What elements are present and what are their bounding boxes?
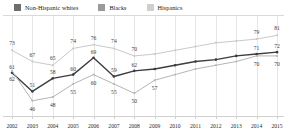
point-label: 48 bbox=[50, 102, 56, 108]
x-axis-tick bbox=[236, 116, 237, 119]
legend-swatch-hispanics bbox=[147, 4, 154, 11]
x-axis-label: 2015 bbox=[271, 123, 282, 129]
point-label: 46 bbox=[30, 106, 36, 112]
x-axis-label: 2005 bbox=[68, 123, 79, 129]
line-chart: Non-Hispanic whites Blacks Hispanics 736… bbox=[0, 0, 287, 138]
x-axis-label: 2014 bbox=[251, 123, 262, 129]
x-axis-tick bbox=[277, 116, 278, 119]
legend-item-hispanics[interactable]: Hispanics bbox=[147, 4, 183, 11]
x-axis-tick bbox=[94, 116, 95, 119]
chart-legend: Non-Hispanic whites Blacks Hispanics bbox=[0, 0, 287, 15]
x-axis-tick bbox=[155, 116, 156, 119]
point-label: 55 bbox=[111, 89, 117, 95]
point-label: 61 bbox=[9, 64, 15, 70]
legend-label-blacks: Blacks bbox=[109, 4, 126, 11]
point-label: 62 bbox=[9, 76, 15, 82]
point-label: 72 bbox=[274, 43, 280, 49]
point-label: 69 bbox=[91, 49, 97, 55]
plot-area: 7367657476747079816151586069596271726246… bbox=[0, 16, 287, 116]
x-axis-label: 2004 bbox=[47, 123, 58, 129]
point-label: 50 bbox=[131, 98, 137, 104]
point-label: 70 bbox=[254, 61, 260, 67]
x-axis-tick bbox=[73, 116, 74, 119]
point-label: 81 bbox=[274, 25, 280, 31]
point-label: 58 bbox=[50, 69, 56, 75]
x-axis-tick bbox=[53, 116, 54, 119]
x-axis-tick bbox=[134, 116, 135, 119]
legend-swatch-blacks bbox=[98, 4, 105, 11]
point-label: 65 bbox=[50, 55, 56, 61]
x-axis-tick bbox=[32, 116, 33, 119]
x-axis-label: 2006 bbox=[88, 123, 99, 129]
legend-swatch-non-hispanic-whites bbox=[14, 4, 21, 11]
x-axis-label: 2013 bbox=[231, 123, 242, 129]
x-axis-label: 2012 bbox=[210, 123, 221, 129]
point-label: 79 bbox=[254, 29, 260, 35]
point-label: 70 bbox=[274, 61, 280, 67]
x-axis-label: 2009 bbox=[149, 123, 160, 129]
x-axis: 2002200320042005200620072008200920102011… bbox=[0, 116, 287, 138]
x-axis-label: 2003 bbox=[27, 123, 38, 129]
x-axis-tick bbox=[195, 116, 196, 119]
x-axis-label: 2008 bbox=[129, 123, 140, 129]
x-axis-label: 2010 bbox=[169, 123, 180, 129]
data-point-labels: 7367657476747079816151586069596271726246… bbox=[0, 16, 287, 116]
x-axis-line bbox=[3, 116, 284, 117]
point-label: 74 bbox=[111, 38, 117, 44]
legend-item-blacks[interactable]: Blacks bbox=[98, 4, 126, 11]
point-label: 57 bbox=[152, 85, 158, 91]
point-label: 71 bbox=[254, 45, 260, 51]
x-axis-tick bbox=[216, 116, 217, 119]
legend-label-hispanics: Hispanics bbox=[158, 4, 183, 11]
x-axis-tick bbox=[114, 116, 115, 119]
point-label: 73 bbox=[9, 40, 15, 46]
point-label: 67 bbox=[30, 52, 36, 58]
legend-item-non-hispanic-whites[interactable]: Non-Hispanic whites bbox=[14, 4, 78, 11]
legend-label-non-hispanic-whites: Non-Hispanic whites bbox=[25, 4, 78, 11]
x-axis-tick bbox=[12, 116, 13, 119]
point-label: 76 bbox=[91, 35, 97, 41]
point-label: 70 bbox=[131, 46, 137, 52]
point-label: 60 bbox=[70, 66, 76, 72]
point-label: 51 bbox=[30, 82, 36, 88]
point-label: 59 bbox=[111, 67, 117, 73]
x-axis-tick bbox=[175, 116, 176, 119]
point-label: 74 bbox=[70, 38, 76, 44]
x-axis-label: 2007 bbox=[108, 123, 119, 129]
x-axis-label: 2002 bbox=[6, 123, 17, 129]
x-axis-label: 2011 bbox=[190, 123, 201, 129]
point-label: 60 bbox=[91, 80, 97, 86]
x-axis-tick bbox=[257, 116, 258, 119]
point-label: 62 bbox=[131, 62, 137, 68]
point-label: 55 bbox=[70, 89, 76, 95]
